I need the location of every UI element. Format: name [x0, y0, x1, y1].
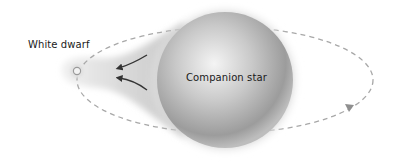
white-dwarf — [73, 67, 80, 74]
binary-star-diagram: White dwarf Companion star — [0, 0, 398, 162]
orbit-direction-arrow-icon — [345, 104, 354, 112]
white-dwarf-label: White dwarf — [28, 39, 90, 50]
companion-star-label: Companion star — [186, 72, 267, 83]
